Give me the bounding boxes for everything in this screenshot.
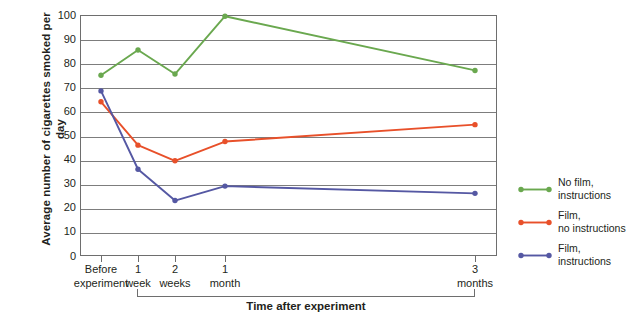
legend-label: No film, instructions bbox=[558, 176, 631, 201]
x-axis-tick-label: 1week bbox=[125, 263, 151, 290]
x-axis-title: Time after experiment bbox=[137, 300, 475, 312]
x-axis-tick bbox=[101, 256, 102, 262]
x-axis-tick bbox=[475, 256, 476, 262]
chart-figure: Average number of cigarettes smoked per … bbox=[0, 0, 631, 325]
legend-item[interactable]: No film, instructions bbox=[518, 176, 631, 202]
legend-label: Film, no instructions bbox=[558, 209, 631, 234]
gridline bbox=[81, 209, 496, 210]
y-axis-tick-label: 20 bbox=[48, 202, 76, 213]
y-axis-tick-label: 60 bbox=[48, 106, 76, 117]
gridline bbox=[81, 233, 496, 234]
x-axis-tick bbox=[175, 256, 176, 262]
plot-area bbox=[80, 15, 497, 256]
x-axis-tick bbox=[225, 256, 226, 262]
gridline bbox=[81, 40, 496, 41]
gridline bbox=[81, 64, 496, 65]
y-axis-tick-labels: 0102030405060708090100 bbox=[42, 0, 76, 325]
y-axis-tick-label: 80 bbox=[48, 58, 76, 69]
y-axis-tick-label: 100 bbox=[48, 10, 76, 21]
chart-legend: No film, instructionsFilm, no instructio… bbox=[518, 176, 631, 275]
gridline bbox=[81, 137, 496, 138]
gridline bbox=[81, 88, 496, 89]
x-axis-tick-label: 3months bbox=[457, 263, 493, 290]
gridline bbox=[81, 112, 496, 113]
x-axis-tick-label: Beforeexperiment bbox=[74, 263, 128, 290]
x-axis-tick-label: 1month bbox=[210, 263, 241, 290]
y-axis-tick-label: 70 bbox=[48, 82, 76, 93]
legend-label: Film, instructions bbox=[558, 242, 631, 267]
y-axis-tick-label: 90 bbox=[48, 34, 76, 45]
y-axis-tick-label: 40 bbox=[48, 154, 76, 165]
y-axis-tick-label: 10 bbox=[48, 226, 76, 237]
legend-item[interactable]: Film, no instructions bbox=[518, 209, 631, 235]
y-axis-tick-label: 0 bbox=[48, 251, 76, 262]
gridline bbox=[81, 161, 496, 162]
y-axis-tick-label: 30 bbox=[48, 178, 76, 189]
legend-swatch-icon bbox=[518, 180, 552, 189]
legend-swatch-icon bbox=[518, 213, 552, 222]
x-axis-tick-label: 2weeks bbox=[159, 263, 190, 290]
y-axis-tick-label: 50 bbox=[48, 130, 76, 141]
legend-swatch-icon bbox=[518, 246, 552, 255]
x-axis-range-bracket bbox=[137, 289, 475, 297]
gridline bbox=[81, 185, 496, 186]
legend-item[interactable]: Film, instructions bbox=[518, 242, 631, 268]
x-axis-tick bbox=[138, 256, 139, 262]
